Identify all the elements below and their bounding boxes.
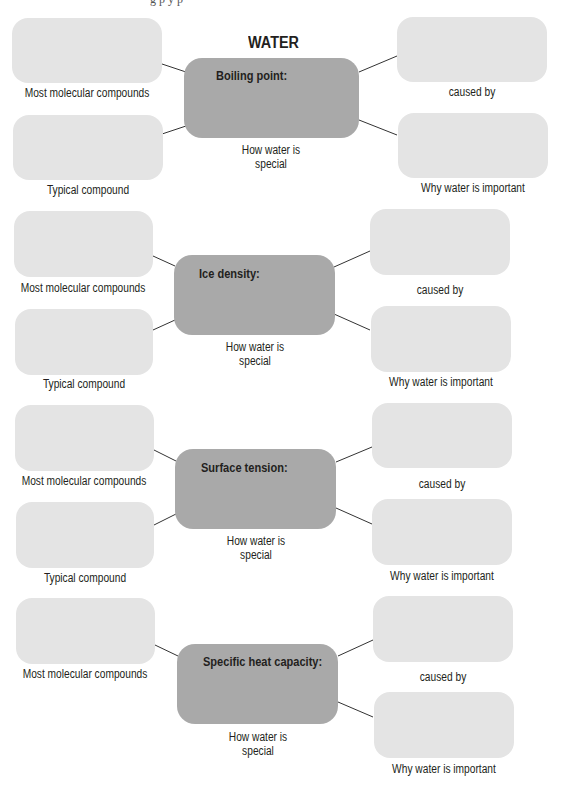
label-caused-by: caused by xyxy=(379,670,507,684)
answer-box-why-water-is-important[interactable] xyxy=(398,113,548,178)
answer-box-typical-compound[interactable] xyxy=(13,115,163,180)
label-why-water-is-important: Why water is important xyxy=(365,375,518,389)
label-typical-compound: Typical compound xyxy=(8,377,161,391)
property-title: Specific heat capacity: xyxy=(203,654,322,669)
label-how-water-is-special: How water is special xyxy=(191,340,319,368)
label-line: How water is xyxy=(192,534,320,548)
center-box-surface-tension[interactable]: Surface tension: xyxy=(175,449,336,529)
answer-box-most-molecular-compounds[interactable] xyxy=(16,598,155,664)
connector-line xyxy=(154,450,176,461)
label-line: How water is xyxy=(191,340,319,354)
diagram-title: WATER xyxy=(248,34,299,52)
connector-line xyxy=(336,508,372,524)
label-most-molecular-compounds: Most molecular compounds xyxy=(8,474,161,488)
label-most-molecular-compounds: Most molecular compounds xyxy=(7,281,160,295)
label-line: special xyxy=(191,354,319,368)
connector-line xyxy=(154,514,176,525)
property-title: Boiling point: xyxy=(216,68,287,83)
connector-line xyxy=(334,251,370,267)
label-why-water-is-important: Why water is important xyxy=(368,762,521,776)
label-typical-compound: Typical compound xyxy=(9,571,162,585)
label-how-water-is-special: How water is special xyxy=(194,730,322,758)
label-why-water-is-important: Why water is important xyxy=(366,569,519,583)
center-box-ice-density[interactable]: Ice density: xyxy=(174,255,335,335)
center-box-specific-heat-capacity[interactable]: Specific heat capacity: xyxy=(177,644,338,724)
label-caused-by: caused by xyxy=(376,283,504,297)
answer-box-most-molecular-compounds[interactable] xyxy=(15,405,154,471)
label-how-water-is-special: How water is special xyxy=(207,143,335,171)
label-line: How water is xyxy=(194,730,322,744)
connector-line xyxy=(338,640,373,656)
answer-box-caused-by[interactable] xyxy=(370,209,510,275)
answer-box-why-water-is-important[interactable] xyxy=(374,692,514,758)
connector-line xyxy=(338,702,373,717)
answer-box-caused-by[interactable] xyxy=(372,403,512,468)
answer-box-caused-by[interactable] xyxy=(373,596,513,662)
answer-box-typical-compound[interactable] xyxy=(15,309,153,375)
connector-line xyxy=(155,645,178,656)
label-line: special xyxy=(194,744,322,758)
property-title: Surface tension: xyxy=(201,460,288,475)
connector-line xyxy=(334,314,370,330)
label-how-water-is-special: How water is special xyxy=(192,534,320,562)
label-line: special xyxy=(192,548,320,562)
label-caused-by: caused by xyxy=(408,85,536,99)
label-caused-by: caused by xyxy=(378,477,506,491)
connector-line xyxy=(336,447,372,462)
connector-line xyxy=(162,64,186,72)
center-box-boiling-point[interactable]: Boiling point: xyxy=(184,58,359,138)
label-line: How water is xyxy=(207,143,335,157)
connector-line xyxy=(162,126,186,134)
cropped-header-text: g p y p xyxy=(150,0,183,7)
answer-box-most-molecular-compounds[interactable] xyxy=(14,211,153,277)
label-typical-compound: Typical compound xyxy=(12,183,165,197)
answer-box-most-molecular-compounds[interactable] xyxy=(12,18,162,83)
label-most-molecular-compounds: Most molecular compounds xyxy=(11,86,164,100)
connector-line xyxy=(153,256,175,266)
label-why-water-is-important: Why water is important xyxy=(397,181,550,195)
answer-box-why-water-is-important[interactable] xyxy=(372,499,512,565)
label-line: special xyxy=(207,157,335,171)
answer-box-caused-by[interactable] xyxy=(397,17,547,82)
connector-line xyxy=(359,120,397,135)
property-title: Ice density: xyxy=(199,266,260,281)
connector-line xyxy=(359,56,397,72)
answer-box-why-water-is-important[interactable] xyxy=(371,306,511,372)
connector-line xyxy=(153,320,175,330)
answer-box-typical-compound[interactable] xyxy=(16,502,154,568)
label-most-molecular-compounds: Most molecular compounds xyxy=(9,667,162,681)
